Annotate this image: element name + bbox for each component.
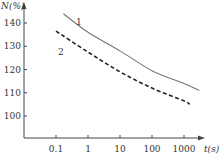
series-line-2 <box>56 31 190 104</box>
series-label-1: 1 <box>76 17 82 27</box>
x-axis-arrow-icon <box>198 136 205 141</box>
x-tick-label: 1000 <box>173 144 196 154</box>
y-tick-label: 120 <box>4 65 21 75</box>
series-line-1 <box>63 14 199 91</box>
series-labels: 12 <box>58 17 82 57</box>
y-axis-label: N(%) <box>0 1 25 11</box>
y-tick-label: 100 <box>4 111 21 121</box>
x-tick-label: 100 <box>143 144 160 154</box>
series-label-2: 2 <box>58 47 64 57</box>
x-tick-label: 10 <box>114 144 126 154</box>
x-tick-label: 1 <box>85 144 91 154</box>
y-tick-label: 140 <box>4 18 21 28</box>
y-tick-label: 110 <box>4 88 21 98</box>
x-axis-label: t(s) <box>204 144 220 154</box>
x-tick-label: 0.1 <box>49 144 63 154</box>
series-lines <box>56 14 199 105</box>
chart: N(%) t(s) 100110120130140 0.11101001000 … <box>0 0 220 155</box>
y-tick-label: 130 <box>4 41 21 51</box>
